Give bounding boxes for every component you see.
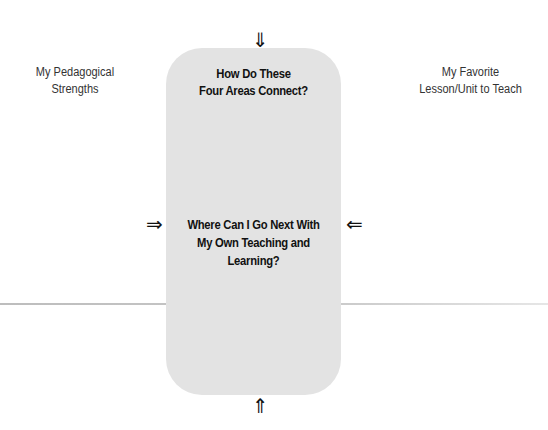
question-line: Learning? [175,252,333,270]
question-line: Four Areas Connect? [175,83,333,100]
question-line: My Own Teaching and [175,234,333,252]
label-line: Lesson/Unit to Teach [402,81,538,98]
connection-question: How Do These Four Areas Connect? [175,66,333,100]
double-arrow-right-icon: ⇒ [146,214,163,234]
center-connection-box: How Do These Four Areas Connect? Where C… [166,48,341,395]
label-pedagogical-strengths: My Pedagogical Strengths [18,64,132,98]
label-line: My Pedagogical [18,64,132,81]
label-line: My Favorite [402,64,538,81]
label-favorite-lesson: My Favorite Lesson/Unit to Teach [402,64,538,98]
double-arrow-down-icon: ⇓ [252,30,269,50]
double-arrow-left-icon: ⇐ [346,214,363,234]
label-line: Strengths [18,81,132,98]
question-line: Where Can I Go Next With [175,216,333,234]
question-line: How Do These [175,66,333,83]
next-steps-question: Where Can I Go Next With My Own Teaching… [175,216,333,270]
double-arrow-up-icon: ⇑ [252,396,269,416]
